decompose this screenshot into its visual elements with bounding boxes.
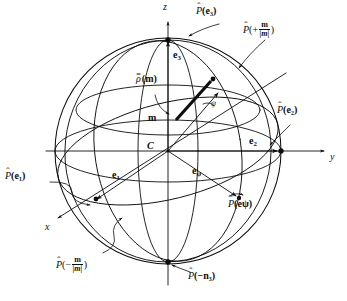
point-P-e2 [278, 148, 283, 153]
hat-accent-icon: ˆ [197, 3, 200, 13]
label-p-hat-plus-m-unit: ˆP(+m|m|) [243, 21, 274, 38]
p-arg-minus-n3: (−n₃) [194, 270, 215, 281]
vector-e-psi [168, 151, 236, 196]
p-hat-wrap-e1: ˆP [5, 171, 11, 181]
axis-label-z: z [163, 2, 167, 12]
p-hat-wrap-plusm: ˆP [243, 25, 249, 35]
hat-accent-icon: ˆ [244, 22, 247, 32]
hat-accent-icon: ˆ [6, 168, 9, 178]
p-hat-wrap-minusm: ˆP [56, 260, 62, 270]
p-hat-wrap-minusn3: ˆP [188, 271, 194, 281]
rho-symbol-wrap: =ρ [136, 74, 141, 84]
hat-accent-icon: ˆ [189, 268, 192, 278]
point-P-plus-m [211, 77, 216, 82]
sign-plus: + [252, 24, 258, 35]
leader-P-e3 [189, 24, 219, 36]
vector-m-base: m [148, 112, 156, 123]
vector-e1-sub: 1 [116, 174, 119, 181]
leader-P-plus-m [239, 40, 265, 68]
label-p-hat-e3: ˆP(e₃) [196, 6, 216, 16]
hat-accent-icon: ˆ [229, 196, 232, 206]
vector-label-e1: e1 [112, 170, 120, 182]
sphere-diagram [0, 0, 347, 301]
axis-label-x: x [45, 222, 49, 232]
paren-close: ) [271, 24, 274, 35]
leader-P-e2 [270, 125, 290, 145]
vector-label-e3: e3 [173, 50, 181, 62]
sign-minus: − [65, 259, 71, 270]
psi-angle-label: ψ [211, 100, 216, 108]
hat-accent-icon: ˆ [57, 257, 60, 267]
p-hat-wrap-e3: ˆP [196, 6, 202, 16]
point-center-C [166, 149, 169, 152]
vector-epsi-sub: ψ [196, 170, 201, 177]
vector-e1 [97, 151, 168, 199]
p-arg-epsi: (eψ) [234, 198, 252, 209]
paren-close: ) [84, 259, 87, 270]
label-p-hat-minus-m-unit: ˆP(−m|m|) [56, 256, 87, 273]
rho-bar-m-label: =ρ(m) [136, 74, 157, 84]
p-arg-e3: (e₃) [202, 5, 216, 16]
fraction-denominator: |m| [259, 30, 271, 38]
label-p-hat-e1: ˆP(e₁) [5, 171, 25, 181]
vector-e3-sub: 3 [177, 54, 180, 61]
point-P-minus-n3 [165, 259, 170, 264]
m-over-abs-m-fraction: m|m| [72, 256, 84, 273]
p-hat-wrap-epsi: ˆP [228, 199, 234, 209]
fraction-denominator: |m| [72, 265, 84, 273]
hat-accent-icon: ˆ [278, 102, 281, 112]
label-p-hat-e-psi: ˆP(eψ) [228, 199, 252, 209]
center-label-c: C [147, 141, 154, 151]
label-p-hat-minus-n3: ˆP(−n₃) [188, 271, 215, 281]
vector-label-e2: e2 [249, 136, 257, 148]
point-P-e1 [94, 197, 99, 202]
p-arg-e2: (e₂) [283, 104, 297, 115]
vector-label-e-psi: eψ [192, 166, 201, 178]
label-p-hat-e2: ˆP(e₂) [277, 105, 297, 115]
p-arg-e1: (e₁) [11, 170, 25, 181]
m-over-abs-m-fraction: m|m| [259, 21, 271, 38]
vector-label-m: m [148, 113, 156, 123]
p-hat-wrap-e2: ˆP [277, 105, 283, 115]
axis-label-y: y [330, 152, 334, 162]
rho-argument: (m) [142, 73, 157, 84]
rho-m-segment-edge [176, 81, 211, 120]
rho-double-bar-accent: = [136, 71, 140, 79]
vector-e2-sub: 2 [253, 140, 256, 147]
point-P-e3 [165, 37, 170, 42]
